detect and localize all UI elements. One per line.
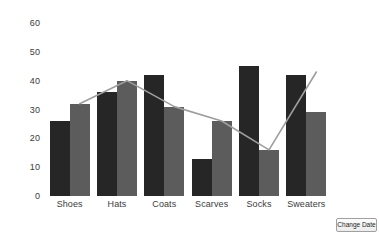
line-series-layer (46, 23, 330, 196)
line-series-svg (46, 23, 330, 196)
y-axis-tick-0: 0 (6, 191, 40, 201)
x-axis-tick-sweaters: Sweaters (276, 199, 336, 210)
change-date-button[interactable]: Change Date (336, 218, 377, 232)
y-axis: 6050403020100 (0, 0, 40, 242)
plot-area (46, 23, 330, 196)
y-axis-tick-40: 40 (6, 76, 40, 86)
bar-chart: 6050403020100 ShoesHatsCoatsScarvesSocks… (0, 0, 379, 242)
y-axis-tick-50: 50 (6, 47, 40, 57)
y-axis-tick-10: 10 (6, 162, 40, 172)
y-axis-tick-60: 60 (6, 18, 40, 28)
y-axis-tick-20: 20 (6, 133, 40, 143)
chart-app: 6050403020100 ShoesHatsCoatsScarvesSocks… (0, 0, 379, 242)
y-axis-tick-30: 30 (6, 105, 40, 115)
line-series-path (80, 72, 317, 150)
